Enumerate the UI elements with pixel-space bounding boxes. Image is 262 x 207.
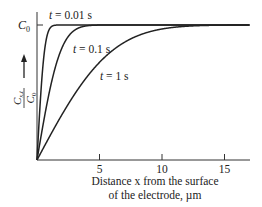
x-axis-label-line1: Distance x from the surface [60, 174, 250, 188]
curves [37, 25, 250, 160]
curve-label: t = 0.1 s [73, 43, 111, 55]
curve-t-1 [37, 25, 250, 160]
up-arrow-icon [21, 54, 27, 78]
svg-text:Cx,t: Cx,t [11, 90, 25, 105]
x-ticks: 51015 [97, 154, 231, 175]
curve-t-0.1 [37, 25, 250, 160]
x-axis-label: Distance x from the surface of the elect… [60, 174, 250, 202]
y-axis-label: Cx,t C0 [11, 88, 38, 108]
curve-label: t = 1 s [100, 70, 129, 82]
curve-label: t = 0.01 s [49, 9, 92, 21]
curve-labels: t = 0.01 st = 0.1 st = 1 s [49, 9, 129, 82]
x-axis-label-line2: of the electrode, µm [60, 188, 250, 202]
y-tick-label-c0: C0 [18, 18, 30, 34]
svg-text:C0: C0 [24, 92, 38, 103]
curve-t-0.01 [37, 25, 250, 160]
